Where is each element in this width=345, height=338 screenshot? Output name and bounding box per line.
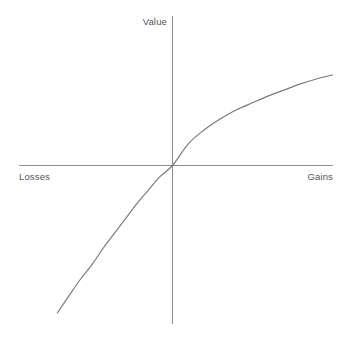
x-axis-label-gains: Gains (307, 172, 333, 182)
value-function-chart: Value Losses Gains (0, 0, 345, 338)
x-axis-label-losses: Losses (19, 172, 50, 182)
y-axis-label-value: Value (143, 17, 167, 27)
value-function-curve (57, 75, 332, 313)
chart-canvas (0, 0, 345, 338)
